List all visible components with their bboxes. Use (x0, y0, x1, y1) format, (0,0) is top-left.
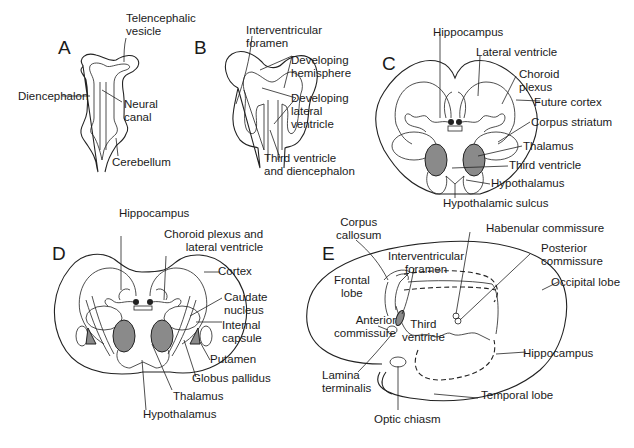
panel-letter-c: C (382, 54, 396, 74)
label-neural-canal: Neural canal (124, 98, 158, 124)
label-cortex: Cortex (218, 265, 252, 278)
label-optic-chiasm: Optic chiasm (374, 413, 440, 426)
label-anterior-commissure: Anterior commissure (334, 314, 396, 340)
label-globus-pallidus: Globus pallidus (192, 372, 271, 385)
forebrain-development-figure: A B C D E Telencephalic vesicle Dienceph… (0, 0, 634, 448)
label-choroid-plexus-c: Choroid plexus (519, 68, 559, 94)
label-putamen: Putamen (210, 353, 256, 366)
panel-letter-b: B (194, 38, 207, 58)
label-third-ventricle-c: Third ventricle (509, 159, 581, 172)
panel-letter-d: D (52, 244, 66, 264)
label-caudate-nucleus: Caudate nucleus (224, 291, 267, 317)
label-thalamus-d: Thalamus (173, 390, 224, 403)
panel-letter-a: A (58, 38, 71, 58)
label-developing-hemisphere: Developing hemisphere (291, 54, 351, 80)
label-hippocampus-e: Hippocampus (523, 347, 593, 360)
label-habenular-commissure: Habenular commissure (486, 222, 604, 235)
label-third-ventricle-diencephalon: Third ventricle and diencephalon (264, 152, 355, 178)
label-corpus-callosum: Corpus callosum (336, 216, 381, 242)
label-third-ventricle-e: Third ventricle (402, 318, 445, 344)
label-developing-lateral-ventricle: Developing lateral ventricle (291, 92, 349, 131)
label-future-cortex: Future cortex (534, 96, 602, 109)
label-hippocampus-c: Hippocampus (433, 26, 503, 39)
label-hypothalamic-sulcus: Hypothalamic sulcus (443, 197, 548, 210)
label-lateral-ventricle-c: Lateral ventricle (476, 46, 557, 59)
label-hypothalamus-d: Hypothalamus (143, 408, 217, 421)
panel-letter-e: E (322, 244, 335, 264)
label-internal-capsule: Internal capsule (222, 319, 262, 345)
label-occipital-lobe: Occipital lobe (551, 276, 620, 289)
label-diencephalon: Diencephalon (18, 90, 88, 103)
label-lamina-terminalis: Lamina terminalis (322, 369, 371, 395)
label-interventricular-foramen-e: Interventricular foramen (388, 250, 464, 276)
label-corpus-striatum: Corpus striatum (531, 116, 612, 129)
label-interventricular-foramen-b: Interventricular foramen (246, 24, 322, 50)
label-temporal-lobe: Temporal lobe (481, 389, 553, 402)
label-posterior-commissure: Posterior commissure (541, 242, 603, 268)
label-choroid-plexus-lateral-ventricle: Choroid plexus and lateral ventricle (164, 228, 263, 254)
label-telencephalic-vesicle: Telencephalic vesicle (126, 12, 196, 38)
label-thalamus-c: Thalamus (523, 140, 574, 153)
label-hippocampus-d: Hippocampus (119, 207, 189, 220)
label-cerebellum: Cerebellum (112, 156, 171, 169)
label-hypothalamus-c: Hypothalamus (491, 177, 565, 190)
label-frontal-lobe: Frontal lobe (334, 274, 370, 300)
